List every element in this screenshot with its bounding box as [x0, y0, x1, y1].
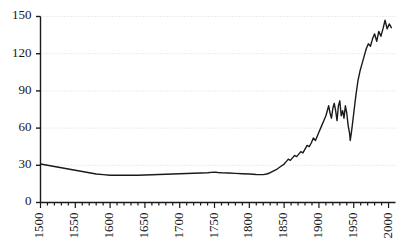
series-line [41, 20, 392, 175]
x-tick-label: 1550 [66, 213, 81, 239]
y-tick-label: 0 [25, 193, 32, 208]
x-axis [41, 203, 396, 209]
x-tick-label: 1850 [275, 213, 290, 239]
x-tick-label: 1950 [345, 213, 360, 239]
x-tick-label: 1750 [206, 213, 221, 239]
x-tick-labels: 1500155016001650170017501800185019001950… [31, 213, 394, 239]
x-tick-label: 2000 [380, 213, 395, 239]
gridlines [41, 17, 396, 166]
y-tick-labels: 0306090120150 [12, 7, 32, 208]
x-tick-label: 1800 [240, 213, 255, 239]
y-tick-label: 30 [19, 156, 32, 171]
data-series [41, 20, 392, 175]
y-tick-label: 120 [12, 45, 32, 60]
x-tick-label: 1600 [101, 213, 116, 239]
line-chart: 0306090120150 15001550160016501700175018… [0, 0, 408, 249]
chart-canvas: 0306090120150 15001550160016501700175018… [0, 0, 408, 249]
y-axis [36, 17, 41, 203]
x-tick-label: 1900 [310, 213, 325, 239]
x-tick-label: 1500 [31, 213, 46, 239]
x-tick-label: 1700 [171, 213, 186, 239]
y-tick-label: 60 [19, 119, 32, 134]
y-tick-label: 90 [19, 82, 32, 97]
x-tick-label: 1650 [136, 213, 151, 239]
y-tick-label: 150 [12, 7, 32, 22]
